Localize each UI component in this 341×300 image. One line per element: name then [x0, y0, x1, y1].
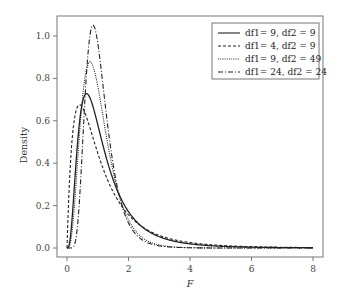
legend: df1= 9, df2 = 9df1= 4, df2 = 9df1= 9, df…	[212, 23, 327, 79]
x-axis-label: F	[186, 278, 194, 289]
density-curve	[67, 62, 313, 248]
y-tick-label: 0.4	[36, 158, 51, 168]
legend-entry: df1= 24, df2 = 24	[245, 67, 327, 77]
y-tick-label: 1.0	[36, 31, 51, 41]
y-tick-label: 0.2	[36, 201, 50, 211]
x-tick-label: 6	[249, 264, 255, 274]
legend-entry: df1= 9, df2 = 9	[245, 28, 316, 38]
legend-entry: df1= 9, df2 = 49	[245, 54, 321, 64]
x-axis: 02468	[64, 257, 316, 274]
legend-entry: df1= 4, df2 = 9	[245, 41, 316, 51]
x-tick-label: 2	[126, 264, 132, 274]
x-tick-label: 4	[187, 264, 193, 274]
x-tick-label: 8	[310, 264, 316, 274]
y-tick-label: 0.0	[36, 243, 51, 253]
y-tick-label: 0.6	[36, 116, 51, 126]
x-tick-label: 0	[64, 264, 70, 274]
density-curve	[67, 105, 313, 248]
y-tick-label: 0.8	[36, 73, 51, 83]
f-distribution-density-chart: 0.00.20.40.60.81.0 02468 Density F df1= …	[0, 0, 341, 300]
y-axis-label: Density	[18, 126, 29, 163]
y-axis: 0.00.20.40.60.81.0	[36, 31, 57, 253]
